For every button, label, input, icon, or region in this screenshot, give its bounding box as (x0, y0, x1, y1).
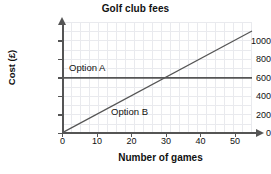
chart-container: Golf club fees 0 200 400 600 800 1000 0 … (0, 0, 271, 174)
series-layer (0, 0, 271, 174)
series-line-option-b (63, 31, 253, 133)
series-label-option-a: Option A (69, 62, 105, 73)
series-label-option-b: Option B (111, 106, 148, 117)
